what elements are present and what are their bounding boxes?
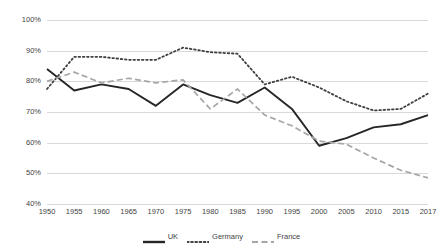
x-axis-tick-label: 1965 <box>114 207 144 216</box>
x-axis-tick-label: 1985 <box>223 207 253 216</box>
line-chart: 100%90%80%70%60%50%40% 19501955196019651… <box>0 0 443 252</box>
y-axis-tick-label: 100% <box>0 16 41 24</box>
x-axis-tick-label: 1950 <box>32 207 62 216</box>
series-line-germany <box>47 48 428 111</box>
chart-legend: UKGermanyFrance <box>0 228 443 244</box>
y-axis-tick-label: 60% <box>0 139 41 147</box>
y-axis-tick-label: 80% <box>0 77 41 85</box>
legend-swatch-uk <box>143 232 165 240</box>
x-axis-tick-label: 2017 <box>413 207 443 216</box>
legend-swatch-germany <box>187 232 209 240</box>
y-axis-tick-label: 70% <box>0 108 41 116</box>
plot-area <box>47 20 428 204</box>
x-axis-tick-label: 1970 <box>141 207 171 216</box>
x-axis-tick-label: 1990 <box>250 207 280 216</box>
x-axis-tick-label: 1955 <box>59 207 89 216</box>
x-axis-tick-label: 2005 <box>331 207 361 216</box>
legend-label-uk: UK <box>168 232 178 241</box>
legend-label-france: France <box>277 232 300 241</box>
x-axis-tick-label: 1975 <box>168 207 198 216</box>
x-axis-tick-label: 2015 <box>386 207 416 216</box>
x-axis-tick-label: 1960 <box>86 207 116 216</box>
y-axis-tick-label: 50% <box>0 169 41 177</box>
legend-item-germany[interactable]: Germany <box>187 232 243 241</box>
series-line-uk <box>47 69 428 146</box>
x-axis: 1950195519601965197019751980198519901995… <box>47 207 428 221</box>
legend-label-germany: Germany <box>212 232 243 241</box>
x-axis-tick-label: 2010 <box>359 207 389 216</box>
x-axis-tick-label: 2000 <box>304 207 334 216</box>
legend-item-uk[interactable]: UK <box>143 232 178 241</box>
legend-item-france[interactable]: France <box>252 232 300 241</box>
x-axis-tick-label: 1995 <box>277 207 307 216</box>
x-axis-tick-label: 1980 <box>195 207 225 216</box>
legend-swatch-france <box>252 232 274 240</box>
gridline-40% <box>47 204 428 205</box>
series-line-france <box>47 72 428 178</box>
y-axis: 100%90%80%70%60%50%40% <box>0 0 45 224</box>
series-layer <box>47 20 428 204</box>
y-axis-tick-label: 90% <box>0 47 41 55</box>
